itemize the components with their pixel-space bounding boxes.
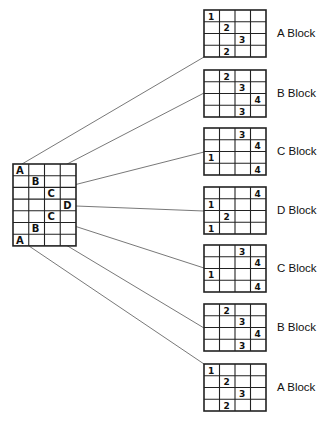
block-b-block: 2343B Block	[204, 70, 316, 117]
block-cell-number: 2	[224, 72, 230, 82]
source-cell-letter: B	[32, 223, 40, 234]
block-cell-number: 4	[255, 329, 261, 339]
connector-line	[46, 233, 204, 328]
block-cell-number: 2	[224, 47, 230, 57]
block-label: D Block	[277, 204, 317, 216]
block-cell-number: 4	[255, 95, 261, 105]
block-a-block: 1232A Block	[204, 364, 316, 411]
block-d-block: 4121D Block	[204, 187, 317, 234]
block-cell-number: 3	[239, 317, 245, 327]
block-cell-number: 4	[255, 282, 261, 292]
block-c-block: 3414C Block	[204, 128, 317, 175]
block-a-block: 1232A Block	[204, 10, 316, 57]
source-grid-table: ABCDCBA	[13, 164, 76, 246]
block-cell-number: 3	[239, 107, 245, 117]
block-b-block: 2343B Block	[204, 304, 316, 351]
connector-line	[62, 222, 204, 268]
source-cell-letter: B	[32, 176, 40, 187]
block-cell-number: 3	[239, 130, 245, 140]
block-cell-number: 1	[208, 153, 214, 163]
block-cell-number: 3	[239, 83, 245, 93]
source-cell-letter: D	[63, 200, 71, 211]
connector-line	[76, 206, 204, 211]
connector-line	[62, 152, 204, 188]
block-cell-number: 3	[239, 247, 245, 257]
block-cell-number: 1	[208, 366, 214, 376]
block-cell-number: 4	[255, 189, 261, 199]
connector-line	[29, 246, 204, 364]
block-cell-number: 4	[255, 165, 261, 175]
block-label: A Block	[277, 27, 316, 39]
block-cell-number: 4	[255, 258, 261, 268]
block-label: C Block	[277, 262, 317, 274]
block-cell-number: 2	[224, 212, 230, 222]
block-cell-number: 2	[224, 306, 230, 316]
block-cell-number: 1	[208, 270, 214, 280]
source-cell-letter: A	[16, 165, 24, 176]
block-cell-number: 1	[208, 224, 214, 234]
block-cell-number: 1	[208, 200, 214, 210]
source-grid: ABCDCBA	[13, 164, 76, 246]
block-cell-number: 2	[224, 377, 230, 387]
source-cell-letter: A	[16, 235, 24, 246]
diagram-canvas: ABCDCBA 1232A Block2343B Block3414C Bloc…	[0, 0, 326, 424]
block-label: C Block	[277, 145, 317, 157]
connector-line	[22, 57, 204, 164]
block-label: B Block	[277, 87, 316, 99]
block-label: B Block	[277, 321, 316, 333]
block-cell-number: 1	[208, 12, 214, 22]
block-cell-number: 4	[255, 141, 261, 151]
block-cell-number: 2	[224, 23, 230, 33]
block-label: A Block	[277, 381, 316, 393]
source-cell-letter: C	[48, 211, 55, 222]
source-cell-letter: C	[48, 188, 55, 199]
block-cell-number: 3	[239, 35, 245, 45]
block-cell-number: 3	[239, 389, 245, 399]
block-cell-number: 3	[239, 341, 245, 351]
target-blocks: 1232A Block2343B Block3414C Block4121D B…	[204, 10, 317, 411]
block-cell-number: 2	[224, 401, 230, 411]
block-mapping-diagram: ABCDCBA 1232A Block2343B Block3414C Bloc…	[0, 0, 326, 424]
block-c-block: 3414C Block	[204, 245, 317, 292]
